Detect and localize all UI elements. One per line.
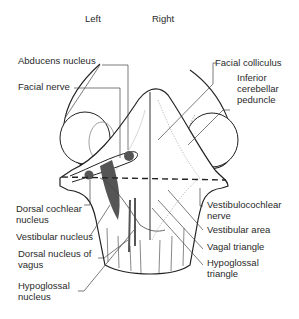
label-facial-nerve: Facial nerve: [18, 81, 70, 92]
label-vestibulocochlear-nerve: Vestibulocochlear nerve: [207, 199, 281, 221]
label-dorsal-nucleus-of-vagus: Dorsal nucleus of vagus: [18, 248, 91, 270]
brainstem-diagram: Left Right Abducens nucleus Facial nerve…: [0, 0, 299, 319]
label-vestibular-nucleus: Vestibular nucleus: [16, 231, 93, 242]
orientation-right-label: Right: [152, 13, 174, 24]
orientation-left-label: Left: [85, 13, 101, 24]
label-vagal-triangle: Vagal triangle: [207, 241, 264, 252]
label-dorsal-cochlear-nucleus: Dorsal cochlear nucleus: [16, 203, 82, 225]
label-facial-colliculus: Facial colliculus: [215, 57, 282, 68]
label-vestibular-area: Vestibular area: [207, 224, 270, 235]
label-hypoglossal-triangle: Hypoglossal triangle: [207, 257, 259, 279]
label-abducens-nucleus: Abducens nucleus: [18, 55, 96, 66]
label-inferior-cerebellar-peduncle: Inferior cerebellar peduncle: [237, 72, 279, 105]
label-hypoglossal-nucleus: Hypoglossal nucleus: [18, 280, 70, 302]
